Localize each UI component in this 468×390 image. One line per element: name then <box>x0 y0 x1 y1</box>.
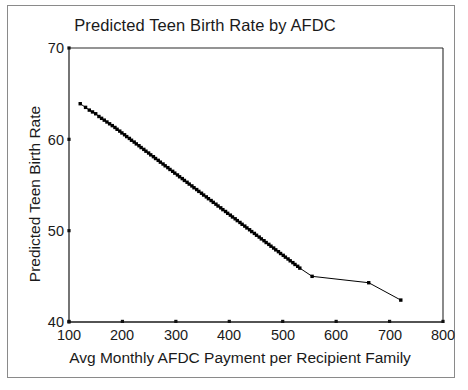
data-series-markers <box>79 102 403 302</box>
tick-marks <box>67 46 444 323</box>
figure: Predicted Teen Birth Rate by AFDC Predic… <box>0 0 468 390</box>
axis-frame <box>69 48 443 322</box>
data-series-line <box>80 104 401 300</box>
plot-area <box>0 0 468 390</box>
